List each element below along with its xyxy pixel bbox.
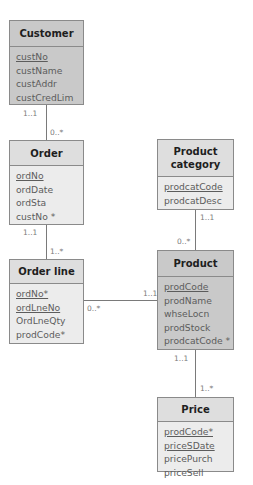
attribute: custAddr xyxy=(16,77,83,91)
attribute: OrdLneQty xyxy=(16,314,83,328)
attribute: prodCode* xyxy=(16,328,83,342)
mult-category-side: 1..1 xyxy=(200,213,214,222)
entity-price[interactable]: Price prodCode* priceSDate pricePurch pr… xyxy=(157,397,234,472)
mult-product-from-category-side: 0..* xyxy=(177,237,190,246)
mult-customer-side: 1..1 xyxy=(23,109,37,118)
rel-product-price-line xyxy=(195,349,196,397)
rel-customer-order-line xyxy=(46,104,47,140)
entity-title: Product category xyxy=(158,140,233,177)
entity-title: Order line xyxy=(10,260,83,284)
attribute-pk: prodcatCode xyxy=(164,180,233,194)
mult-product-to-orderline-side: 1..1 xyxy=(143,289,157,298)
entity-order-line[interactable]: Order line ordNo* ordLneNo OrdLneQty pro… xyxy=(9,259,84,344)
mult-order-to-line-side: 1..1 xyxy=(23,228,37,237)
attribute: prodcatCode * xyxy=(164,334,233,348)
entity-order[interactable]: Order ordNo ordDate ordSta custNo * xyxy=(9,140,84,225)
entity-title-line1: Product xyxy=(173,145,217,158)
attribute-list: ordNo* ordLneNo OrdLneQty prodCode* xyxy=(10,284,83,341)
attribute-pk: prodCode xyxy=(164,280,233,294)
attribute-pk: ordNo* xyxy=(16,287,83,301)
attribute: custCredLim xyxy=(16,91,83,105)
entity-title: Order xyxy=(10,141,83,166)
attribute: prodcatDesc xyxy=(164,194,233,208)
attribute: ordSta xyxy=(16,196,83,210)
attribute-pk: prodCode* xyxy=(164,425,233,439)
attribute-list: custNo custName custAddr custCredLim xyxy=(10,47,83,104)
rel-order-orderline-line xyxy=(46,224,47,259)
entity-title-line2: category xyxy=(171,158,221,171)
entity-product[interactable]: Product prodCode prodName whseLocn prodS… xyxy=(157,250,234,350)
attribute-pk: custNo xyxy=(16,50,83,64)
attribute: pricePurch xyxy=(164,452,233,466)
attribute-list: prodCode prodName whseLocn prodStock pro… xyxy=(158,277,233,348)
mult-orderline-from-product-side: 0..* xyxy=(87,304,100,313)
entity-title: Price xyxy=(158,398,233,422)
mult-order-side: 0..* xyxy=(50,128,63,137)
attribute: prodName xyxy=(164,294,233,308)
attribute-list: prodcatCode prodcatDesc xyxy=(158,177,233,207)
attribute-pk: priceSDate xyxy=(164,439,233,453)
mult-price-side: 1..* xyxy=(200,384,213,393)
rel-category-product-line xyxy=(195,209,196,250)
attribute: ordDate xyxy=(16,183,83,197)
attribute: prodStock xyxy=(164,321,233,335)
attribute-pk: ordNo xyxy=(16,169,83,183)
attribute-list: ordNo ordDate ordSta custNo * xyxy=(10,166,83,223)
attribute: custNo * xyxy=(16,210,83,224)
attribute: whseLocn xyxy=(164,307,233,321)
entity-title: Product xyxy=(158,251,233,277)
attribute-list: prodCode* priceSDate pricePurch priceSel… xyxy=(158,422,233,479)
entity-title: Customer xyxy=(10,21,83,47)
mult-orderline-side: 1..* xyxy=(50,247,63,256)
entity-customer[interactable]: Customer custNo custName custAddr custCr… xyxy=(9,20,84,105)
entity-product-category[interactable]: Product category prodcatCode prodcatDesc xyxy=(157,139,234,210)
rel-product-orderline-line xyxy=(83,300,157,301)
mult-product-to-price-side: 1..1 xyxy=(174,354,188,363)
attribute: priceSell xyxy=(164,466,233,480)
attribute: custName xyxy=(16,64,83,78)
attribute-pk: ordLneNo xyxy=(16,301,83,315)
